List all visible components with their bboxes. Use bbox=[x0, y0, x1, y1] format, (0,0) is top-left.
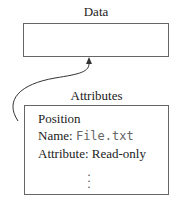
attributes-rows: Position Name: File.txt Attribute: Read-… bbox=[38, 110, 146, 162]
attributes-title: Attributes bbox=[24, 89, 169, 103]
row-attribute: Attribute: Read-only bbox=[38, 145, 146, 162]
row-position: Position bbox=[38, 110, 146, 127]
name-label: Name: bbox=[38, 128, 76, 143]
row-name: Name: File.txt bbox=[38, 127, 146, 145]
continuation-dots: ··· bbox=[87, 172, 91, 190]
name-value: File.txt bbox=[76, 129, 134, 143]
